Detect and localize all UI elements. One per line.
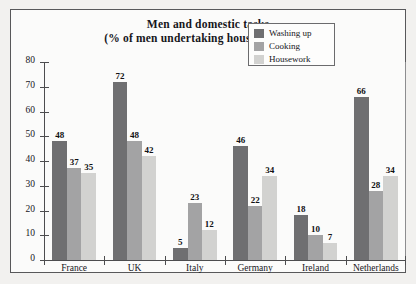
bar	[354, 97, 369, 260]
chart-legend: Washing upCookingHousework	[248, 23, 335, 66]
bar	[248, 206, 263, 260]
legend-label: Washing up	[269, 28, 312, 38]
plot-right-border	[405, 62, 406, 261]
legend-item: Housework	[254, 53, 334, 65]
bar-value-label: 46	[236, 135, 245, 145]
x-axis-tick	[346, 256, 347, 265]
legend-swatch	[254, 42, 264, 51]
y-axis-tick-label: 50	[26, 129, 36, 139]
y-axis-tick: 10	[40, 235, 49, 236]
x-axis-tick	[104, 256, 105, 265]
bar	[173, 248, 188, 260]
chart-title: Men and domestic tasks	[11, 17, 405, 31]
bar-value-label: 5	[178, 237, 183, 247]
bar	[67, 168, 82, 260]
y-axis-tick-label: 80	[26, 55, 36, 65]
bar	[383, 176, 398, 260]
bar-value-label: 18	[297, 204, 306, 214]
x-axis-category-label: Germany	[237, 263, 272, 273]
bar	[127, 141, 142, 260]
bar-value-label: 34	[386, 165, 395, 175]
y-axis-tick: 60	[40, 112, 49, 113]
x-axis-tick	[225, 256, 226, 265]
legend-label: Cooking	[269, 41, 300, 51]
bar	[202, 230, 217, 260]
x-axis-tick	[285, 256, 286, 265]
chart-screenshot: Men and domestic tasks (% of men underta…	[0, 0, 416, 284]
plot-area: 01020304050607080 4837357248425231246223…	[44, 56, 406, 261]
x-axis-category-label: Netherlands	[353, 263, 399, 273]
legend-item: Washing up	[254, 27, 334, 39]
y-axis-tick-label: 10	[26, 228, 36, 238]
bar-value-label: 37	[70, 157, 79, 167]
x-axis-category-label: Ireland	[302, 263, 329, 273]
y-axis-tick: 20	[40, 211, 49, 212]
y-axis-tick: 70	[40, 87, 49, 88]
y-axis-tick: 80	[40, 62, 49, 63]
bar	[81, 173, 96, 260]
legend-label: Housework	[269, 54, 311, 64]
bar-value-label: 35	[84, 162, 93, 172]
bar	[294, 215, 309, 260]
y-axis-tick: 50	[40, 136, 49, 137]
y-axis-tick-label: 30	[26, 179, 36, 189]
bar-value-label: 23	[190, 192, 199, 202]
y-axis-tick-label: 70	[26, 80, 36, 90]
legend-swatch	[254, 29, 264, 38]
bar	[142, 156, 157, 260]
y-axis-tick: 40	[40, 161, 49, 162]
x-axis-tick	[165, 256, 166, 265]
bar	[188, 203, 203, 260]
bar	[323, 243, 338, 260]
x-axis-tick	[405, 256, 406, 265]
bar-value-label: 72	[116, 71, 125, 81]
y-axis-tick-label: 60	[26, 105, 36, 115]
legend-swatch	[254, 55, 264, 64]
bar-value-label: 34	[265, 165, 274, 175]
y-axis-tick-label: 0	[30, 253, 35, 263]
bar-value-label: 10	[311, 224, 320, 234]
y-axis-tick: 30	[40, 186, 49, 187]
bar-value-label: 66	[357, 86, 366, 96]
y-axis-tick-label: 40	[26, 154, 36, 164]
figure-frame: Men and domestic tasks (% of men underta…	[10, 9, 406, 273]
bar	[52, 141, 67, 260]
x-axis-category-label: UK	[128, 263, 142, 273]
bar	[369, 191, 384, 260]
bar	[113, 82, 128, 260]
x-axis-category-label: Italy	[186, 263, 203, 273]
chart-subtitle: (% of men undertaking household work)	[11, 31, 405, 45]
bar	[233, 146, 248, 260]
bar-value-label: 7	[328, 232, 333, 242]
x-axis-tick	[44, 256, 45, 265]
bar-value-label: 28	[371, 180, 380, 190]
x-axis-category-label: France	[61, 263, 87, 273]
bar-value-label: 22	[251, 195, 260, 205]
bar-value-label: 48	[130, 130, 139, 140]
bar	[262, 176, 277, 260]
bar-value-label: 12	[205, 219, 214, 229]
legend-item: Cooking	[254, 40, 334, 52]
bar-value-label: 42	[145, 145, 154, 155]
y-axis-tick-label: 20	[26, 204, 36, 214]
bar-value-label: 48	[55, 130, 64, 140]
bar	[308, 235, 323, 260]
